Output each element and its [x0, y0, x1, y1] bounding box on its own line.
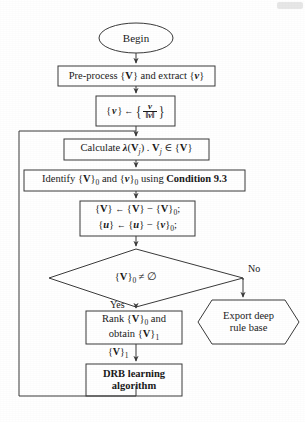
- node-drb-shape: [86, 364, 182, 396]
- node-identify-shape: [24, 170, 245, 191]
- node-normalize-shape: [96, 96, 175, 126]
- node-calculate-shape: [64, 139, 209, 160]
- node-rank-shape: [86, 311, 182, 344]
- node-begin-shape: [99, 23, 173, 53]
- node-preprocess-shape: [58, 66, 215, 86]
- flowchart-canvas: Begin Pre-process {V} and extract {v} {v…: [0, 0, 305, 422]
- node-decision-shape: [49, 249, 243, 307]
- scan-artifact: [277, 2, 303, 9]
- edge-label-yes: Yes: [110, 299, 125, 310]
- edge-label-v-one: {V}1: [108, 346, 129, 360]
- edge-label-no: No: [248, 263, 260, 274]
- node-export-shape: [198, 300, 299, 344]
- flowchart-vector-layer: [0, 0, 305, 422]
- node-subtract-shape: [80, 201, 195, 236]
